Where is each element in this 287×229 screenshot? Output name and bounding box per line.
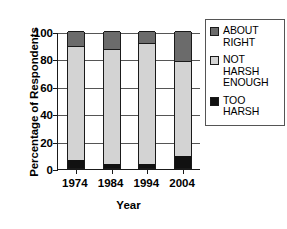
bar-segment: [175, 156, 191, 168]
y-tick-label: 60: [22, 82, 53, 94]
x-tick-mark: [76, 169, 77, 174]
plot-inner: [58, 33, 200, 169]
y-tick-mark: [53, 60, 58, 61]
legend-swatch: [210, 97, 219, 106]
y-axis-tick-labels: 020406080100: [22, 27, 53, 171]
stacked-bar: [174, 32, 192, 169]
bar-segment: [175, 61, 191, 156]
y-tick-mark: [53, 143, 58, 144]
legend-swatch: [210, 27, 219, 36]
bar-segment: [139, 43, 155, 164]
bar-segment: [68, 31, 84, 46]
bar-segment: [175, 31, 191, 61]
y-tick-mark: [53, 33, 58, 34]
x-axis-tick-labels: 1974198419942004: [57, 177, 200, 193]
x-tick-label: 2004: [162, 177, 202, 189]
legend-label-line: ENOUGH: [223, 77, 269, 89]
legend-label-line: ABOUT: [223, 25, 259, 37]
legend-label-line: NOT: [223, 54, 269, 66]
legend-entry: NOTHARSHENOUGH: [210, 54, 281, 89]
x-tick-mark: [112, 169, 113, 174]
x-tick-mark: [183, 169, 184, 174]
y-tick-mark: [53, 115, 58, 116]
bar-segment: [68, 160, 84, 168]
x-tick-mark: [147, 169, 148, 174]
legend-label: TOOHARSH: [223, 95, 259, 118]
y-tick-mark: [53, 170, 58, 171]
y-tick-label: 0: [22, 164, 53, 176]
y-tick-label: 20: [22, 137, 53, 149]
legend-label: ABOUTRIGHT: [223, 25, 259, 48]
bar-segment: [139, 31, 155, 43]
bar-segment: [68, 46, 84, 160]
chart-figure: Percentage of Respondents 020406080100 1…: [0, 0, 287, 229]
legend-label-line: HARSH: [223, 106, 259, 118]
stacked-bar: [67, 32, 85, 169]
legend-entry: ABOUTRIGHT: [210, 25, 281, 48]
stacked-bar: [138, 32, 156, 169]
y-tick-mark: [53, 88, 58, 89]
x-axis-title: Year: [57, 199, 200, 211]
y-tick-label: 40: [22, 109, 53, 121]
legend-label-line: RIGHT: [223, 37, 259, 49]
y-tick-label: 80: [22, 54, 53, 66]
bar-segment: [104, 164, 120, 168]
legend-entry: TOOHARSH: [210, 95, 281, 118]
bar-segment: [104, 49, 120, 164]
bar-segment: [139, 164, 155, 168]
y-tick-label: 100: [22, 27, 53, 39]
legend-swatch: [210, 56, 219, 65]
chart-legend: ABOUTRIGHTNOTHARSHENOUGHTOOHARSH: [205, 19, 285, 126]
bar-segment: [104, 31, 120, 49]
legend-label: NOTHARSHENOUGH: [223, 54, 269, 89]
x-tick-label: 1974: [55, 177, 95, 189]
plot-area: [57, 33, 200, 170]
stacked-bar: [103, 32, 121, 169]
x-tick-label: 1994: [126, 177, 166, 189]
x-tick-label: 1984: [91, 177, 131, 189]
